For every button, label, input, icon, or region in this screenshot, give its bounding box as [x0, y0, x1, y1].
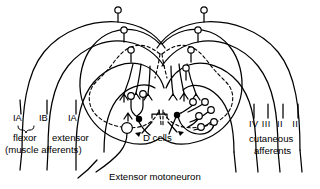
class-stem-ia-flexor — [20, 100, 21, 114]
label-ib-flexor: IB — [39, 114, 48, 124]
rootlet-right-1 — [300, 150, 302, 172]
terminal-bouton-left-3 — [128, 47, 134, 53]
afferent-arc-right-4 — [183, 85, 234, 152]
interneuron-right-1 — [190, 99, 197, 106]
interneuron-right-3 — [208, 107, 215, 114]
terminal-fork-right-b — [180, 93, 188, 101]
label-extensor: extensor — [52, 133, 89, 143]
terminal-bouton-left-2 — [121, 27, 127, 33]
cord-and-arcs-layer — [0, 0, 320, 189]
terminal-bouton-right-1 — [201, 7, 207, 13]
label-muscle-afferents: (muscle afferents) — [5, 145, 82, 155]
motoneuron-callout-leader — [78, 160, 97, 178]
motoneuron-axon — [96, 133, 127, 172]
collateral-left-b — [136, 64, 141, 93]
figure-canvas: IA IB IA flexor extensor (muscle afferen… — [0, 0, 320, 189]
collateral-right-c — [171, 66, 173, 94]
label-cutaneous-classes: IV III II II — [249, 120, 298, 130]
terminal-fork-left-d — [124, 113, 132, 121]
interneuron-left-1-process — [131, 99, 138, 117]
rootlet-right-4 — [234, 152, 236, 172]
terminal-bouton-right-2 — [195, 27, 201, 33]
interneuron-left-2-process — [137, 97, 143, 116]
interneuron-right-2 — [202, 99, 209, 106]
dcells-bracket — [152, 114, 167, 118]
dcells-arrow-right-head — [178, 131, 184, 136]
terminal-fork-right-c — [169, 94, 177, 100]
interneuron-left-1 — [128, 93, 135, 100]
dcells-arrow-left-head — [135, 132, 141, 137]
label-afferents: afferents — [254, 146, 291, 156]
extensor-motoneuron-soma — [122, 123, 133, 134]
afferent-arc-right-1 — [157, 22, 300, 150]
label-ia-extensor: IA — [68, 114, 77, 124]
interneuron-right-6 — [198, 124, 205, 131]
terminal-bouton-right-4 — [183, 65, 189, 71]
label-extensor-motoneuron: Extensor motoneuron — [109, 172, 201, 182]
interneuron-right-5 — [211, 119, 218, 126]
terminal-bouton-left-1 — [115, 7, 121, 13]
interneuron-right-2-process — [188, 104, 203, 112]
recurrent-loop-right — [178, 116, 214, 134]
label-cutaneous: cutaneous — [249, 134, 293, 144]
terminal-bouton-right-3 — [188, 47, 194, 53]
inhibitory-terminal-right — [174, 112, 180, 118]
dcells-arrow-right-shaft — [168, 122, 177, 132]
interneuron-right-1-process — [181, 105, 193, 113]
interneuron-left-2 — [140, 91, 147, 98]
interneuron-right-4 — [196, 113, 203, 120]
collateral-left-c — [148, 66, 150, 94]
label-d-cells: D cells — [143, 133, 172, 143]
label-ia-flexor: IA — [13, 114, 22, 124]
inhibitory-terminal-left — [136, 116, 142, 122]
label-flexor: flexor — [13, 133, 36, 143]
